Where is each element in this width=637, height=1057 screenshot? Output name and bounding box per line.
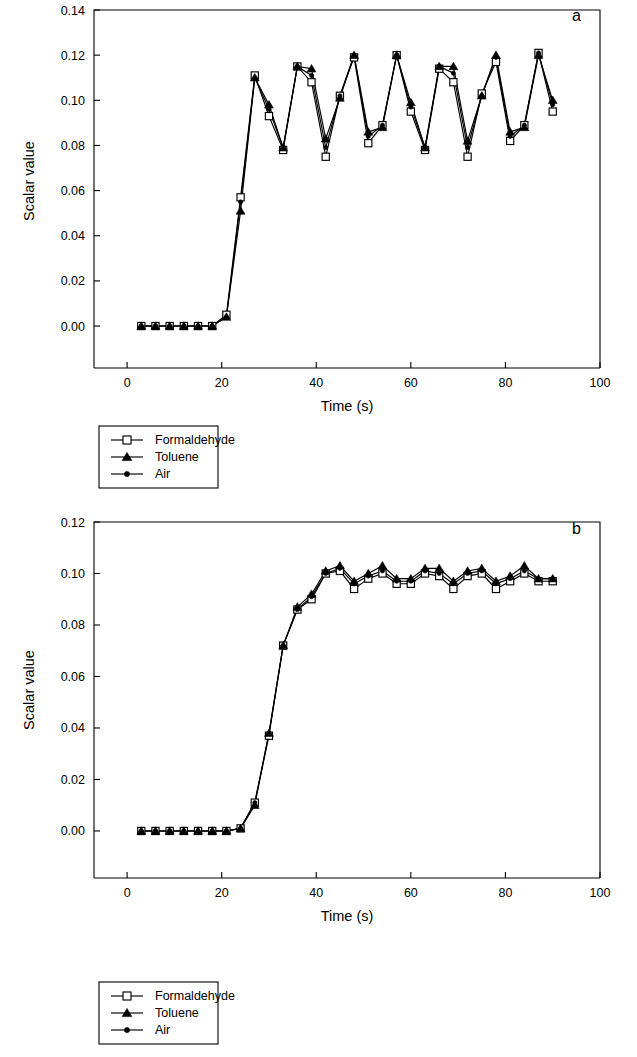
marker-filled-circle [508,577,512,581]
y-tick-label: 0.00 [61,320,85,334]
panel-label: b [572,520,581,537]
y-tick-label: 0.12 [61,49,85,63]
marker-filled-circle [423,569,427,573]
y-tick-label: 0.04 [61,229,85,243]
x-tick-label: 40 [309,376,323,390]
y-tick-label: 0.00 [61,824,85,838]
marker-filled-circle [380,123,384,127]
legend-label: Air [155,467,170,481]
marker-filled-circle [338,566,342,570]
marker-filled-circle [551,577,555,581]
legend-b-svg: FormaldehydeTolueneAir [0,978,637,1057]
legend-a-svg: FormaldehydeTolueneAir [0,420,637,500]
y-tick-label: 0.06 [61,184,85,198]
marker-filled-circle [465,146,469,150]
marker-filled-circle [480,569,484,573]
marker-open-square [450,585,457,592]
chart-panel-b: 0.000.020.040.060.080.100.12020406080100… [0,500,637,980]
marker-filled-circle [210,829,214,833]
legend-marker-filled-circle [124,1027,129,1032]
marker-filled-triangle [520,562,529,569]
x-tick-label: 60 [404,886,418,900]
marker-filled-circle [465,571,469,575]
marker-filled-circle [153,324,157,328]
legend-marker-open-square [123,436,131,444]
legend-marker-filled-circle [124,471,129,476]
series-group [141,53,552,326]
marker-filled-circle [494,582,498,586]
marker-filled-circle [352,53,356,57]
marker-filled-circle [295,607,299,611]
chart-b-svg: 0.000.020.040.060.080.100.12020406080100… [0,500,637,980]
y-tick-label: 0.10 [61,94,85,108]
marker-open-square [308,79,315,86]
marker-filled-circle [536,577,540,581]
marker-open-square [265,113,272,120]
marker-filled-circle [210,324,214,328]
marker-filled-circle [522,123,526,127]
marker-filled-circle [494,55,498,59]
marker-filled-circle [324,571,328,575]
marker-filled-circle [522,569,526,573]
marker-open-square [350,585,357,592]
marker-filled-circle [536,51,540,55]
marker-open-square [549,108,556,115]
marker-filled-circle [224,315,228,319]
x-tick-label: 60 [404,376,418,390]
x-tick-label: 40 [309,886,323,900]
y-tick-label: 0.06 [61,670,85,684]
legend-label: Formaldehyde [155,989,235,1003]
chart-a-svg: 0.000.020.040.060.080.100.120.1402040608… [0,0,637,420]
marker-filled-circle [168,324,172,328]
y-tick-label: 0.14 [61,4,85,18]
marker-filled-circle [338,94,342,98]
marker-filled-circle [281,643,285,647]
marker-filled-circle [366,574,370,578]
y-tick-label: 0.08 [61,139,85,153]
legend-label: Toluene [155,1006,199,1020]
marker-filled-circle [239,826,243,830]
series-line-formaldehyde [141,571,552,831]
marker-filled-circle [423,146,427,150]
panel-label: a [572,7,581,24]
marker-filled-triangle [236,207,245,214]
marker-filled-circle [324,146,328,150]
legend-panel-a: FormaldehydeTolueneAir [0,420,637,500]
marker-filled-circle [380,569,384,573]
marker-filled-circle [437,571,441,575]
legend-label: Toluene [155,450,199,464]
marker-filled-circle [253,76,257,80]
series-line-air [141,568,552,831]
marker-filled-circle [395,579,399,583]
legend-label: Formaldehyde [155,433,235,447]
marker-filled-circle [451,582,455,586]
marker-filled-circle [239,200,243,204]
x-tick-label: 80 [498,886,512,900]
marker-filled-circle [409,105,413,109]
marker-filled-circle [309,73,313,77]
plot-frame [94,10,600,352]
legend-label: Air [155,1023,170,1037]
y-tick-label: 0.10 [61,567,85,581]
marker-filled-circle [480,94,484,98]
marker-filled-circle [139,829,143,833]
marker-filled-circle [139,324,143,328]
marker-filled-circle [267,731,271,735]
marker-open-square [365,140,372,147]
series-line-air [141,53,552,326]
marker-group [137,562,557,835]
marker-filled-circle [196,829,200,833]
x-tick-label: 0 [124,886,131,900]
x-tick-label: 20 [215,376,229,390]
legend-panel-b: FormaldehydeTolueneAir [0,978,637,1057]
marker-filled-circle [224,829,228,833]
marker-filled-circle [395,53,399,57]
marker-open-square [322,153,329,160]
marker-filled-triangle [378,562,387,569]
chart-panel-a: 0.000.020.040.060.080.100.120.1402040608… [0,0,637,420]
marker-open-square [450,79,457,86]
marker-filled-circle [182,829,186,833]
marker-filled-circle [168,829,172,833]
marker-filled-circle [508,134,512,138]
marker-filled-circle [451,71,455,75]
